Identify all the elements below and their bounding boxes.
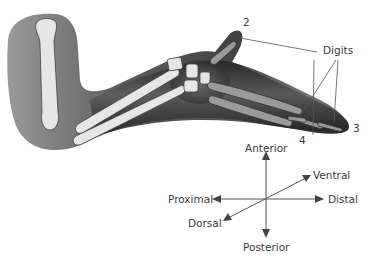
digit-2-label: 2 bbox=[243, 17, 250, 28]
limb-tissue bbox=[7, 14, 349, 150]
axis-label-posterior: Posterior bbox=[243, 242, 289, 253]
axis-label-distal: Distal bbox=[328, 194, 358, 205]
digit-4-label: 4 bbox=[299, 135, 306, 146]
axis-label-proximal: Proximal bbox=[168, 194, 213, 205]
axis-label-ventral: Ventral bbox=[313, 170, 350, 181]
digits-label: Digits bbox=[323, 45, 353, 56]
limb-illustration bbox=[0, 0, 373, 261]
axis-arrows bbox=[212, 151, 324, 238]
axis-label-dorsal: Dorsal bbox=[188, 218, 222, 229]
limb-diagram: 2 Digits 3 4 Anterior Ventral Proximal D… bbox=[0, 0, 373, 261]
digit-3-label: 3 bbox=[353, 123, 360, 134]
axis-label-anterior: Anterior bbox=[245, 143, 287, 154]
